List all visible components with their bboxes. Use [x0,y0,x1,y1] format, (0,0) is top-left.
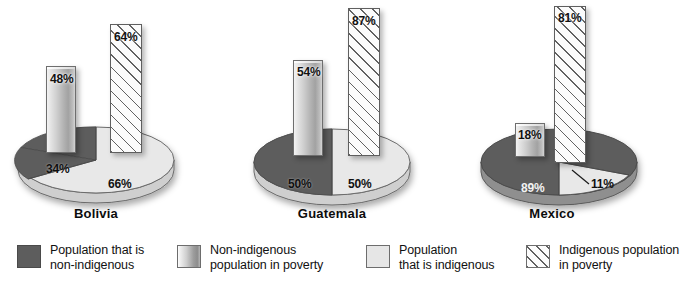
bar-value-label-48: 48% [50,72,73,86]
bar-value-label-54: 54% [297,65,320,79]
legend-item-non-indigenous-poverty: Non-indigenous population in poverty [177,243,323,272]
legend-swatch-hatched-icon [526,245,550,268]
legend-label-line1: Indigenous population [559,243,679,258]
pie-label-dark-bolivia: 34% [46,162,69,176]
country-group-guatemala: 50% 50% 54% 87% Guatemala [230,0,460,230]
pie-disc-svg [230,0,460,230]
legend-label-line1: Non-indigenous [210,243,323,258]
legend-swatch-light-icon [366,245,390,268]
country-label-bolivia: Bolivia [0,206,192,221]
pie-disc-guatemala: 50% 50% [230,0,460,230]
bar-indigenous-poverty-guatemala [348,8,380,156]
country-label-guatemala: Guatemala [230,206,434,221]
legend-swatch-gradient-icon [177,245,201,268]
country-group-mexico: 89% 11% 18% 81% Mexico [459,0,689,230]
bar-value-label-87: 87% [352,14,375,28]
legend-label-line1: Population that is [50,243,144,258]
pie-label-light-bolivia: 66% [108,177,131,191]
legend-label-line2: non-indigenous [50,258,144,273]
bar-indigenous-poverty-mexico [554,6,586,163]
legend-item-population-indigenous: Population that is indigenous [366,243,495,272]
legend-label-line2: that is indigenous [399,258,495,273]
legend-label-line2: population in poverty [210,258,323,273]
legend-label-line1: Population [399,243,495,258]
legend-swatch-dark-icon [17,245,41,268]
chart-canvas: 34% 66% 48% 64% Bolivia [0,0,689,291]
country-label-mexico: Mexico [459,206,645,221]
bar-value-label-64: 64% [114,30,137,44]
legend-label-line2: in poverty [559,258,679,273]
pie-label-light-mexico: 11% [591,177,614,191]
pie-label-dark-mexico: 89% [521,181,544,195]
legend-item-indigenous-poverty: Indigenous population in poverty [526,243,679,272]
legend-item-population-non-indigenous: Population that is non-indigenous [17,243,144,272]
country-group-bolivia: 34% 66% 48% 64% Bolivia [0,0,230,230]
bar-value-label-81: 81% [558,11,581,25]
chart-legend: Population that is non-indigenous Non-in… [0,243,689,291]
pie-label-light-guatemala: 50% [348,177,371,191]
bar-value-label-18: 18% [518,128,541,142]
pie-label-dark-guatemala: 50% [288,177,311,191]
